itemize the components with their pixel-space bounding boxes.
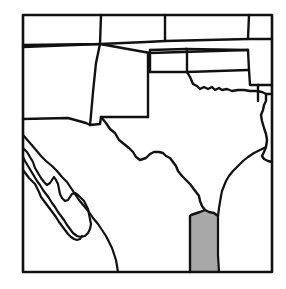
state-border-divider-a [100,15,101,44]
state-border-oklahoma-panhandle-top [150,49,186,50]
map-figure [0,0,286,289]
state-border-divider-c [248,15,249,39]
highlighted-region-lower-rio-grande-valley [190,210,219,272]
state-border-colorado-kansas [186,49,248,50]
map-background [0,0,286,289]
map-canvas [0,0,286,289]
